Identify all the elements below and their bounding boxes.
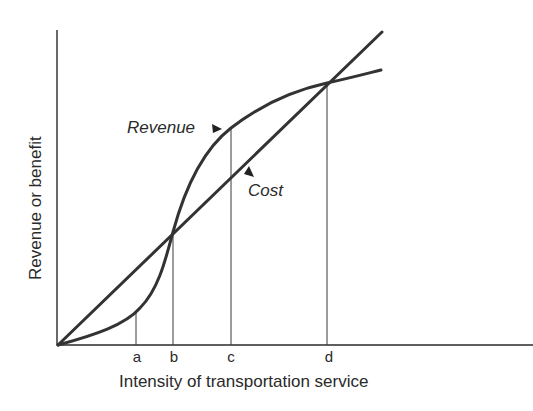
revenue-label: Revenue bbox=[127, 118, 195, 137]
revenue-pointer-icon bbox=[212, 124, 222, 133]
tick-label-a: a bbox=[133, 348, 142, 365]
revenue-cost-diagram: Revenue Cost a b c d Intensity of transp… bbox=[0, 0, 533, 411]
tick-label-d: d bbox=[325, 348, 333, 365]
cost-label: Cost bbox=[248, 181, 284, 200]
tick-label-b: b bbox=[170, 348, 178, 365]
x-axis-title: Intensity of transportation service bbox=[119, 372, 368, 391]
revenue-curve bbox=[58, 70, 381, 345]
cost-line bbox=[58, 32, 382, 345]
cost-pointer-icon bbox=[244, 166, 254, 177]
tick-label-c: c bbox=[227, 348, 235, 365]
y-axis-title: Revenue or benefit bbox=[26, 136, 45, 280]
